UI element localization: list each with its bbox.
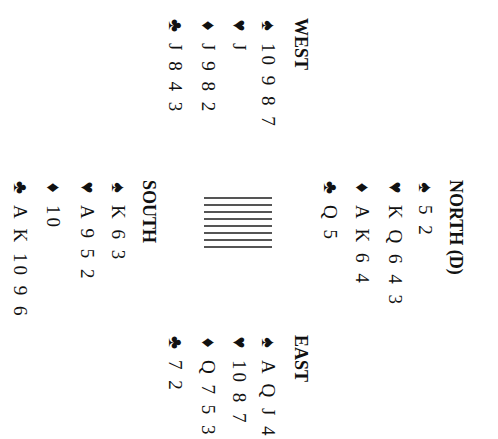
diamond-icon: ♦ [351, 177, 374, 199]
club-icon: ♣ [164, 332, 187, 354]
divider [204, 211, 272, 213]
west-diamonds: ♦J 9 8 2 [197, 14, 219, 114]
east-diamonds: ♦Q 7 5 3 [197, 331, 219, 437]
divider [204, 246, 272, 248]
club-icon: ♣ [319, 177, 342, 199]
north-diamonds: ♦A K 6 4 [351, 176, 373, 286]
east-clubs: ♣7 2 [164, 331, 186, 393]
spade-icon: ♠ [257, 15, 280, 37]
north-clubs: ♣Q 5 [319, 176, 341, 242]
divider [204, 197, 272, 199]
south-clubs: ♣A K 10 9 6 [9, 176, 31, 318]
divider [204, 218, 272, 220]
diamond-icon: ♦ [42, 177, 65, 199]
south-diamonds: ♦10 [42, 176, 64, 230]
spade-icon: ♠ [414, 177, 437, 199]
heart-icon: ♥ [384, 177, 407, 199]
spade-icon: ♠ [107, 177, 130, 199]
divider [204, 204, 272, 206]
diamond-icon: ♦ [197, 332, 220, 354]
north-title: NORTH (D) [445, 180, 467, 275]
south-spades: ♠K 6 3 [107, 176, 129, 262]
divider [204, 225, 272, 227]
club-icon: ♣ [9, 177, 32, 199]
heart-icon: ♥ [228, 332, 251, 354]
diamond-icon: ♦ [197, 15, 220, 37]
east-hearts: ♥10 8 7 [228, 331, 250, 426]
west-title: WEST [290, 18, 312, 70]
west-hearts: ♥J [228, 14, 250, 53]
south-hearts: ♥A 9 5 2 [76, 176, 98, 281]
north-hearts: ♥K Q 6 4 3 [384, 176, 406, 307]
south-title: SOUTH [138, 180, 160, 243]
spade-icon: ♠ [257, 332, 280, 354]
heart-icon: ♥ [76, 177, 99, 199]
table-center-lines [204, 197, 272, 253]
west-clubs: ♣J 8 4 3 [164, 14, 186, 114]
west-spades: ♠10 9 8 7 [257, 14, 279, 129]
north-spades: ♠5 2 [414, 176, 436, 238]
divider [204, 232, 272, 234]
club-icon: ♣ [164, 15, 187, 37]
east-spades: ♠A Q J 4 [257, 331, 279, 439]
divider [204, 239, 272, 241]
east-title: EAST [290, 335, 312, 382]
heart-icon: ♥ [228, 15, 251, 37]
